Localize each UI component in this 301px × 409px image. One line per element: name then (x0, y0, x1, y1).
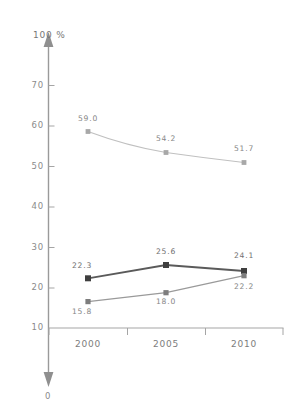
data-point-marker (163, 262, 169, 268)
data-label-dark-2000: 22.3 (65, 262, 99, 270)
data-point-marker (85, 299, 90, 304)
y-axis-zero-label: 0 (45, 392, 51, 401)
x-tick-label-2005: 2005 (142, 340, 190, 349)
y-tick-label-30: 30 (14, 243, 44, 252)
data-label-light-2010: 51.7 (227, 145, 261, 153)
data-point-marker (242, 160, 247, 165)
y-tick-label-60: 60 (14, 121, 44, 130)
y-tick-label-20: 20 (14, 283, 44, 292)
x-tick-label-2010: 2010 (220, 340, 268, 349)
x-tick-label-2000: 2000 (64, 340, 112, 349)
y-axis-down-arrow-icon (44, 372, 54, 387)
y-tick-label-10: 10 (14, 323, 44, 332)
x-axis-ticks (49, 328, 283, 335)
data-point-marker (241, 273, 246, 278)
y-axis-unit-label: 100 % (33, 31, 66, 40)
data-label-medium-2000: 15.8 (65, 308, 99, 316)
data-label-dark-2005: 25.6 (149, 248, 183, 256)
y-tick-label-40: 40 (14, 202, 44, 211)
data-label-light-2000: 59.0 (71, 115, 105, 123)
series-dark-line (85, 262, 247, 281)
data-label-medium-2010: 22.2 (227, 283, 261, 291)
data-label-medium-2005: 18.0 (149, 298, 183, 306)
y-tick-label-70: 70 (14, 81, 44, 90)
y-tick-label-50: 50 (14, 162, 44, 171)
data-label-dark-2010: 24.1 (227, 252, 261, 260)
data-point-marker (163, 290, 168, 295)
data-point-marker (86, 129, 91, 134)
line-chart: 100 % 0 70 60 50 40 30 20 10 2000 2005 2… (0, 0, 301, 409)
data-point-marker (164, 150, 169, 155)
y-axis-ticks (49, 86, 55, 289)
data-label-light-2005: 54.2 (149, 135, 183, 143)
data-point-marker (85, 275, 91, 281)
